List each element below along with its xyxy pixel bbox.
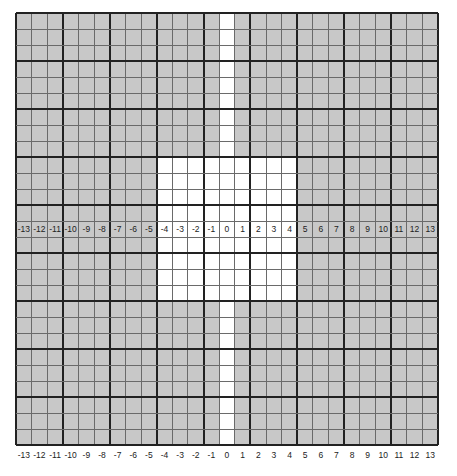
grid-cell-shaded: [297, 397, 313, 413]
grid-cell-shaded: [32, 29, 48, 45]
grid-cell-shaded: [250, 333, 266, 349]
grid-cell-shaded: [344, 13, 360, 29]
grid-cell-shaded: [47, 381, 63, 397]
grid-cell-shaded: [141, 237, 157, 253]
grid-cell-shaded: [47, 157, 63, 173]
grid-cell-shaded: [407, 237, 423, 253]
minor-grid-line: [16, 429, 438, 430]
grid-cell-shaded: [422, 349, 438, 365]
bottom-axis-label: -2: [188, 447, 204, 463]
grid-cell-shaded: [282, 381, 298, 397]
grid-cell-shaded: [313, 381, 329, 397]
grid-cell-shaded: [375, 381, 391, 397]
grid-cell-shaded: [329, 269, 345, 285]
grid-cell-shaded: [110, 205, 126, 221]
grid-cell-shaded: [94, 157, 110, 173]
grid-cell-shaded: [32, 77, 48, 93]
grid-cell-shaded: [32, 365, 48, 381]
middle-axis-label: 3: [266, 221, 282, 237]
grid-cell-shaded: [297, 77, 313, 93]
grid-cell-shaded: [422, 333, 438, 349]
grid-cell-shaded: [313, 205, 329, 221]
major-grid-line: [16, 108, 438, 110]
grid-cell-shaded: [63, 189, 79, 205]
grid-cell-shaded: [47, 29, 63, 45]
grid-cell-shaded: [110, 253, 126, 269]
grid-cell-shaded: [204, 397, 220, 413]
grid-cell-white: [219, 173, 235, 189]
grid-cell-white: [219, 381, 235, 397]
grid-cell-shaded: [329, 381, 345, 397]
grid-cell-shaded: [16, 269, 32, 285]
bottom-axis-label: -6: [125, 447, 141, 463]
grid-cell-shaded: [360, 253, 376, 269]
grid-cell-shaded: [407, 429, 423, 445]
grid-cell-shaded: [375, 61, 391, 77]
grid-cell-shaded: [94, 109, 110, 125]
grid-cell-shaded: [375, 109, 391, 125]
grid-cell-shaded: [172, 29, 188, 45]
grid-cell-white: [157, 285, 173, 301]
grid-cell-shaded: [344, 285, 360, 301]
grid-cell-shaded: [141, 13, 157, 29]
grid-cell-shaded: [313, 269, 329, 285]
grid-cell-shaded: [172, 61, 188, 77]
grid-cell-shaded: [297, 413, 313, 429]
grid-cell-shaded: [375, 173, 391, 189]
grid-cell-shaded: [204, 109, 220, 125]
grid-cell-shaded: [329, 253, 345, 269]
grid-cell-shaded: [297, 189, 313, 205]
middle-axis-label: -12: [32, 221, 48, 237]
grid-cell-white: [219, 397, 235, 413]
grid-cell-shaded: [344, 109, 360, 125]
grid-cell-shaded: [110, 429, 126, 445]
grid-cell-shaded: [110, 269, 126, 285]
grid-cell-shaded: [297, 349, 313, 365]
minor-grid-line: [16, 93, 438, 94]
grid-cell-shaded: [32, 349, 48, 365]
bottom-axis-label: 13: [422, 447, 438, 463]
middle-axis-label: 13: [422, 221, 438, 237]
grid-cell-shaded: [422, 61, 438, 77]
grid-cell-shaded: [157, 333, 173, 349]
grid-cell-shaded: [375, 13, 391, 29]
grid-cell-shaded: [407, 77, 423, 93]
grid-cell-shaded: [313, 349, 329, 365]
grid-cell-shaded: [266, 141, 282, 157]
grid-cell-shaded: [63, 333, 79, 349]
grid-cell-shaded: [94, 253, 110, 269]
grid-cell-shaded: [16, 13, 32, 29]
grid-cell-shaded: [313, 45, 329, 61]
grid-cell-shaded: [375, 397, 391, 413]
middle-axis-label: -2: [188, 221, 204, 237]
grid-cell-white: [219, 205, 235, 221]
grid-cell-shaded: [172, 93, 188, 109]
minor-grid-line: [16, 381, 438, 382]
grid-cell-shaded: [125, 29, 141, 45]
grid-cell-shaded: [172, 365, 188, 381]
middle-axis-label: 11: [391, 221, 407, 237]
major-grid-line: [16, 252, 438, 254]
grid-cell-shaded: [391, 237, 407, 253]
grid-cell-shaded: [79, 125, 95, 141]
grid-cell-shaded: [297, 205, 313, 221]
grid-cell-white: [219, 77, 235, 93]
grid-cell-shaded: [250, 125, 266, 141]
grid-cell-shaded: [360, 333, 376, 349]
grid-cell-white: [219, 189, 235, 205]
grid-cell-shaded: [329, 301, 345, 317]
grid-cell-shaded: [360, 173, 376, 189]
grid-cell-shaded: [422, 157, 438, 173]
grid-cell-shaded: [329, 93, 345, 109]
grid-cell-shaded: [32, 205, 48, 221]
grid-cell-shaded: [16, 413, 32, 429]
grid-cell-shaded: [79, 29, 95, 45]
grid-cell-shaded: [344, 365, 360, 381]
grid-cell-shaded: [32, 253, 48, 269]
grid-cell-shaded: [391, 29, 407, 45]
grid-cell-shaded: [79, 61, 95, 77]
grid-cell-shaded: [422, 77, 438, 93]
grid-cell-white: [282, 269, 298, 285]
coordinate-grid: -13-12-11-10-9-8-7-6-5-4-3-2-10123456789…: [16, 13, 438, 445]
grid-cell-shaded: [422, 29, 438, 45]
